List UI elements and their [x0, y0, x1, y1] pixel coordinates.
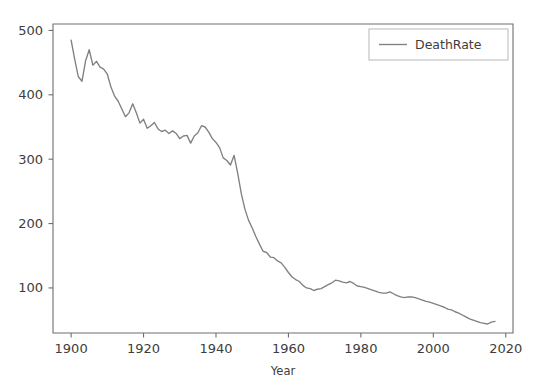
x-tick-label: 2000	[417, 341, 450, 356]
y-tick-label: 300	[18, 152, 43, 167]
x-tick-label: 2020	[489, 341, 522, 356]
x-axis-title: Year	[270, 364, 296, 378]
chart-legend: DeathRate	[369, 29, 508, 60]
y-tick-label: 500	[18, 23, 43, 38]
x-tick-label: 1940	[199, 341, 232, 356]
x-tick-label: 1980	[344, 341, 377, 356]
legend-label-deathrate: DeathRate	[415, 37, 482, 52]
y-tick-label: 200	[18, 216, 43, 231]
y-tick-label: 100	[18, 280, 43, 295]
y-tick-label: 400	[18, 87, 43, 102]
line-chart: 1900192019401960198020002020 10020030040…	[0, 0, 533, 387]
chart-figure: 1900192019401960198020002020 10020030040…	[0, 0, 533, 387]
x-tick-label: 1920	[127, 341, 160, 356]
x-tick-label: 1900	[55, 341, 88, 356]
x-tick-label: 1960	[272, 341, 305, 356]
